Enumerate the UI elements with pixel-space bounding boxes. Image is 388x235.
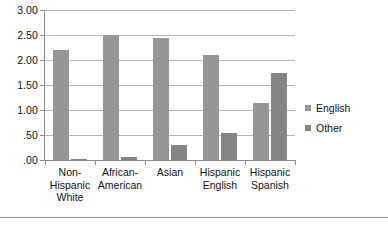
category-label-line: English xyxy=(195,179,245,192)
y-axis-tick xyxy=(40,85,45,86)
legend-label: English xyxy=(316,103,350,114)
y-axis-tick xyxy=(40,10,45,11)
bar-group xyxy=(195,10,245,160)
category-label-line: Non- xyxy=(45,166,95,179)
category-label-line: African- xyxy=(95,166,145,179)
bar-english xyxy=(253,103,269,161)
y-axis-tick xyxy=(40,35,45,36)
bar-other xyxy=(271,73,287,161)
y-axis-tick-label: .00 xyxy=(23,155,38,166)
x-axis-category-label: Non-HispanicWhite xyxy=(45,166,95,204)
y-axis-tick-label: 3.00 xyxy=(17,5,38,16)
y-axis-tick xyxy=(40,135,45,136)
x-axis-category-label: HispanicSpanish xyxy=(245,166,295,191)
y-axis-tick-label: 2.50 xyxy=(17,30,38,41)
bar-group xyxy=(245,10,295,160)
x-axis-tick xyxy=(245,160,246,165)
legend-item[interactable]: Other xyxy=(305,120,385,136)
bar-other xyxy=(221,133,237,161)
x-axis-tick xyxy=(95,160,96,165)
y-axis-tick xyxy=(40,110,45,111)
bar-english xyxy=(103,35,119,160)
bars-layer xyxy=(45,10,295,160)
y-axis-tick-labels: .00.501.001.502.002.503.00 xyxy=(0,10,38,160)
category-label-line: White xyxy=(45,191,95,204)
legend-label: Other xyxy=(316,123,342,134)
bar-english xyxy=(53,50,69,160)
x-axis-category-label: HispanicEnglish xyxy=(195,166,245,191)
y-axis-tick-label: .50 xyxy=(23,130,38,141)
y-axis-tick-label: 2.00 xyxy=(17,55,38,66)
x-axis-category-label: Asian xyxy=(145,166,195,179)
bar-other xyxy=(121,157,137,160)
bar-english xyxy=(153,38,169,161)
x-axis-tick xyxy=(145,160,146,165)
legend-swatch-icon xyxy=(305,105,311,111)
x-axis-tick xyxy=(295,160,296,165)
bar-english xyxy=(203,55,219,160)
bar-group xyxy=(145,10,195,160)
category-label-line: Asian xyxy=(145,166,195,179)
x-axis-tick xyxy=(195,160,196,165)
category-label-line: Hispanic xyxy=(245,166,295,179)
bar-group xyxy=(95,10,145,160)
x-axis-category-label: African-American xyxy=(95,166,145,191)
x-axis-tick xyxy=(45,160,46,165)
y-axis-tick xyxy=(40,60,45,61)
category-label-line: American xyxy=(95,179,145,192)
footer-divider xyxy=(0,217,388,218)
y-axis-tick-label: 1.00 xyxy=(17,105,38,116)
category-label-line: Hispanic xyxy=(45,179,95,192)
bar-group xyxy=(45,10,95,160)
bar-chart: .00.501.001.502.002.503.00 Non-HispanicW… xyxy=(0,0,388,235)
y-axis-tick-label: 1.50 xyxy=(17,80,38,91)
category-label-line: Spanish xyxy=(245,179,295,192)
bar-other xyxy=(71,159,87,161)
category-label-line: Hispanic xyxy=(195,166,245,179)
bar-other xyxy=(171,145,187,160)
x-axis-baseline xyxy=(45,160,295,161)
x-axis-category-labels: Non-HispanicWhiteAfrican-AmericanAsianHi… xyxy=(45,166,295,206)
legend-item[interactable]: English xyxy=(305,100,385,116)
chart-legend: EnglishOther xyxy=(305,100,385,140)
legend-swatch-icon xyxy=(305,125,311,131)
